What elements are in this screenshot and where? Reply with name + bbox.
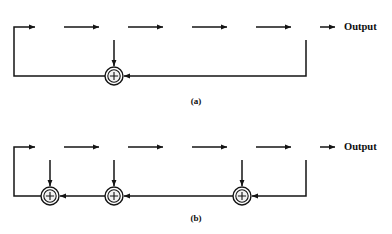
- panel-a-caption: (a): [191, 96, 202, 106]
- panel-b-xor-b-1: [41, 187, 59, 205]
- panel-a-xor-a-1: [105, 67, 123, 85]
- panel-a-feedback-return-wire: [14, 27, 105, 76]
- panel-b-xor-b-3: [233, 187, 251, 205]
- panel-a-output-label: Output: [344, 21, 377, 32]
- panel-b-feedback-return-wire: [14, 147, 41, 196]
- panel-b-feedback-from-b0-wire: [252, 160, 306, 196]
- lfsr-svg-canvas: Output(a)Output(b): [0, 0, 392, 234]
- figure-lfsr-diagrams: Output(a)Output(b) (a) Output B 4 B 3 B …: [0, 0, 392, 234]
- panel-b-xor-b-2: [105, 187, 123, 205]
- panel-b-caption: (b): [191, 213, 202, 223]
- panel-a-feedback-from-b0-wire: [124, 40, 306, 76]
- panel-b-output-label: Output: [344, 141, 377, 152]
